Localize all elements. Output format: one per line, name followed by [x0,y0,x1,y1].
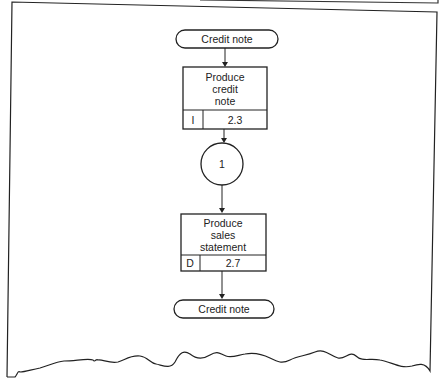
flow-arrow [222,48,228,67]
process2-label-line2: sales [211,229,236,241]
start-terminator-label: Credit note [201,33,253,45]
process2-label-line1: Produce [203,217,242,229]
previous-frame-edge [200,0,438,3]
process1-ref: 2.3 [228,114,243,126]
end-terminator: Credit note [174,300,274,318]
connector-circle: 1 [201,143,243,185]
process1-code: I [192,114,195,126]
flow-arrow [221,129,227,143]
flow-arrow [219,271,225,299]
process2-ref: 2.7 [226,257,241,269]
start-terminator: Credit note [176,30,278,48]
process-box-produce-credit-note: Produce credit note I 2.3 [183,67,267,129]
flow-arrow [219,185,225,213]
process1-label-line3: note [215,95,236,107]
connector-label: 1 [219,158,225,170]
process1-label-line1: Produce [205,71,244,83]
diagram-canvas: Credit note Produce credit note I 2.3 1 … [0,0,441,383]
process1-label-line2: credit [212,83,238,95]
process2-label-line3: statement [200,241,246,253]
end-terminator-label: Credit note [198,303,250,315]
process2-code: D [186,257,194,269]
process-box-produce-sales-statement: Produce sales statement D 2.7 [181,214,266,271]
